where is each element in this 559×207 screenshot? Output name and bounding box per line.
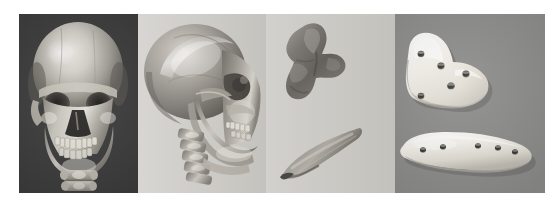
implant-plate-icon: [395, 14, 545, 193]
elongated-implant-plate: [400, 132, 536, 177]
skull-lateral-icon: [138, 14, 266, 193]
bone-fragment-icon: [266, 14, 395, 193]
elongated-bone-sliver: [280, 128, 362, 179]
l-shaped-implant-plate: [406, 33, 493, 112]
panel-lateral-ct-skull: Lateral oblique view 3D CT reconstructio…: [138, 14, 266, 193]
irregular-bone-fragment: [286, 23, 345, 99]
panel-custom-implant-plates: Fabricated patient-specific implant plat…: [395, 14, 545, 193]
panel-frontal-ct-skull: Frontal view 3D CT reconstruction of sku…: [19, 14, 138, 193]
panel-bone-graft-models: Segmented bone graft / defect models: [266, 14, 395, 193]
figure-title: Three-dimensional CT skull reconstructio…: [0, 0, 1, 1]
medical-figure: Three-dimensional CT skull reconstructio…: [0, 0, 559, 207]
skull-front-icon: [19, 14, 138, 193]
